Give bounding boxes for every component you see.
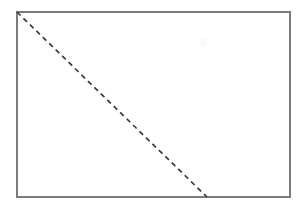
canvas-background xyxy=(0,0,303,209)
scan-artifact-mark xyxy=(199,38,207,46)
diagram-svg xyxy=(0,0,303,209)
figure-canvas xyxy=(0,0,303,209)
